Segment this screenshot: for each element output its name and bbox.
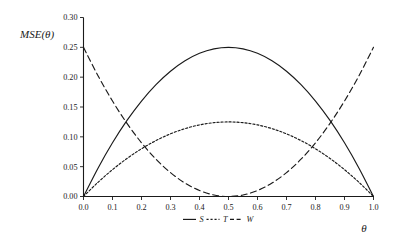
mse-line-chart: MSE(θ) θ 0.000.050.100.150.200.250.30 0.… <box>0 0 397 242</box>
data-curves <box>84 47 374 196</box>
x-tick-label: 0.4 <box>194 203 204 212</box>
x-axis-title-label: θ <box>361 222 367 234</box>
axis-frame <box>84 18 374 197</box>
y-tick-label: 0.15 <box>63 103 77 112</box>
x-tick-label: 0.3 <box>165 203 175 212</box>
x-axis-title: θ <box>361 222 367 234</box>
x-tick-label: 0.0 <box>78 203 88 212</box>
chart-figure: MSE(θ) θ 0.000.050.100.150.200.250.30 0.… <box>0 0 397 242</box>
y-tick-label: 0.10 <box>63 133 77 142</box>
y-tick-label: 0.30 <box>63 13 77 22</box>
y-tick-label: 0.00 <box>63 192 77 201</box>
y-axis-title: MSE(θ) <box>19 28 54 41</box>
x-tick-label: 0.9 <box>339 203 349 212</box>
x-tick-label: 0.1 <box>107 203 117 212</box>
y-tick-label: 0.25 <box>63 43 77 52</box>
y-axis-title-label: MSE(θ) <box>19 28 54 41</box>
x-tick-label: 0.5 <box>223 203 233 212</box>
axis-lines <box>84 18 374 197</box>
legend-label-t: T <box>223 215 229 224</box>
chart-legend: STW <box>183 215 255 224</box>
y-tick-label: 0.05 <box>63 163 77 172</box>
legend-label-s: S <box>200 215 204 224</box>
y-axis-ticks: 0.000.050.100.150.200.250.30 <box>63 13 83 201</box>
legend-label-w: W <box>247 215 255 224</box>
x-tick-label: 0.2 <box>136 203 146 212</box>
curve-t <box>84 122 374 197</box>
x-tick-label: 1.0 <box>368 203 378 212</box>
x-tick-label: 0.7 <box>281 203 291 212</box>
y-tick-label: 0.20 <box>63 73 77 82</box>
x-axis-ticks: 0.00.10.20.30.40.50.60.70.80.91.0 <box>78 197 378 212</box>
x-tick-label: 0.6 <box>252 203 262 212</box>
x-tick-label: 0.8 <box>310 203 320 212</box>
